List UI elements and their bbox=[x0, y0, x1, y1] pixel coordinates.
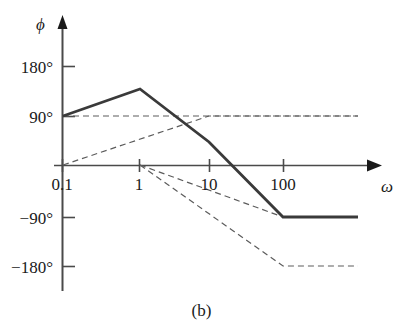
x-axis-label: ω bbox=[381, 177, 393, 196]
y-tick-label-180: 180° bbox=[21, 58, 53, 77]
figure-caption: (b) bbox=[0, 301, 403, 321]
y-tick-marks bbox=[63, 67, 76, 267]
x-tick-label-1: 1 bbox=[135, 175, 144, 194]
y-tick-label-neg180: −180° bbox=[11, 258, 53, 277]
rising-zero-asymptote bbox=[63, 116, 358, 165]
x-tick-label-100: 100 bbox=[270, 175, 296, 194]
first-pole-asymptote bbox=[140, 165, 358, 217]
y-tick-label-neg90: −90° bbox=[20, 209, 53, 228]
y-axis-label: ϕ bbox=[36, 15, 45, 34]
phase-plot-svg: ϕ ω 180° 90° −90° −180° 0.1 1 10 100 bbox=[0, 0, 403, 330]
total-phase-curve bbox=[63, 89, 358, 217]
y-tick-label-90: 90° bbox=[29, 108, 53, 127]
x-axis-arrowhead bbox=[367, 160, 382, 172]
x-tick-label-10: 10 bbox=[201, 175, 218, 194]
y-axis-arrowhead bbox=[58, 15, 68, 29]
bode-phase-plot-figure: ϕ ω 180° 90° −90° −180° 0.1 1 10 100 bbox=[0, 0, 403, 330]
second-pole-asymptote bbox=[140, 165, 358, 266]
x-tick-label-0p1: 0.1 bbox=[51, 175, 72, 194]
